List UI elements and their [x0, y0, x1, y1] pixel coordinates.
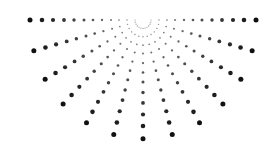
dot	[167, 64, 170, 67]
dot	[154, 41, 156, 43]
dot	[93, 70, 96, 73]
dot	[135, 24, 136, 25]
dot	[190, 70, 193, 73]
dot	[82, 18, 85, 21]
dot	[92, 19, 95, 22]
dot	[171, 72, 174, 75]
dot	[96, 100, 100, 104]
dot	[102, 90, 106, 94]
dot	[157, 78, 160, 81]
dot	[142, 44, 144, 46]
dot	[210, 18, 213, 21]
dot	[141, 80, 144, 83]
dot	[164, 109, 168, 113]
dot	[118, 109, 122, 113]
dot	[126, 78, 129, 81]
dot	[192, 19, 195, 22]
dot	[141, 136, 146, 141]
dot	[219, 65, 223, 69]
dot	[126, 19, 127, 20]
dot	[62, 18, 66, 22]
dot	[141, 124, 146, 129]
dot	[144, 28, 145, 29]
dot	[158, 48, 160, 50]
dot	[131, 60, 133, 62]
dot	[85, 77, 89, 81]
dot	[148, 43, 150, 45]
dot	[242, 18, 247, 23]
dot	[146, 27, 147, 28]
dot	[82, 55, 85, 58]
dot	[121, 98, 125, 102]
dot	[177, 56, 180, 59]
dot	[228, 71, 233, 76]
dot	[63, 65, 67, 69]
dot	[197, 120, 202, 125]
dot	[53, 71, 58, 76]
dot	[250, 48, 255, 53]
dot	[101, 19, 103, 21]
dot	[170, 36, 172, 38]
dot	[127, 24, 128, 25]
dot	[197, 77, 201, 81]
dot	[159, 37, 161, 39]
dot	[181, 90, 185, 94]
dot	[113, 49, 115, 51]
dot	[61, 101, 66, 106]
dot	[170, 132, 175, 137]
dot	[146, 36, 147, 37]
dot	[154, 31, 155, 32]
dot	[158, 19, 159, 20]
dot	[142, 36, 143, 37]
dot	[165, 26, 167, 28]
dot	[166, 19, 168, 21]
dot	[162, 56, 164, 58]
dot	[123, 88, 126, 91]
dot	[110, 19, 112, 21]
dot	[121, 56, 123, 58]
dot	[152, 60, 154, 62]
dot	[142, 28, 143, 29]
dot	[193, 49, 196, 52]
dot	[150, 19, 151, 20]
dot	[93, 32, 96, 35]
dot	[183, 19, 185, 21]
dot	[134, 51, 136, 53]
dot	[111, 132, 116, 137]
dot	[111, 28, 113, 30]
dot	[140, 28, 141, 29]
dot	[158, 24, 159, 25]
dot	[90, 110, 95, 115]
dot	[114, 36, 116, 38]
dot	[200, 18, 203, 21]
dot	[210, 60, 214, 64]
dot	[125, 37, 127, 39]
dot	[185, 45, 188, 48]
dot	[176, 81, 179, 84]
dot	[174, 19, 176, 21]
dot	[134, 34, 135, 35]
dot	[130, 41, 132, 43]
dot	[198, 35, 201, 38]
dot	[231, 18, 235, 22]
dot	[173, 28, 175, 30]
dot	[190, 32, 193, 35]
dot	[136, 43, 138, 45]
dot	[238, 45, 243, 50]
dot	[107, 81, 110, 84]
radial-dot-sunburst	[0, 0, 278, 155]
dot	[117, 64, 120, 67]
dot	[167, 120, 172, 125]
dot	[254, 18, 259, 23]
dot	[134, 19, 135, 20]
dot	[177, 40, 179, 42]
dot	[31, 48, 36, 53]
dot	[112, 72, 115, 75]
dot	[72, 18, 75, 21]
dot	[40, 18, 45, 23]
dot	[106, 40, 108, 42]
dot	[141, 112, 145, 116]
dot	[65, 40, 69, 44]
dot	[217, 40, 221, 44]
dot	[155, 69, 158, 72]
